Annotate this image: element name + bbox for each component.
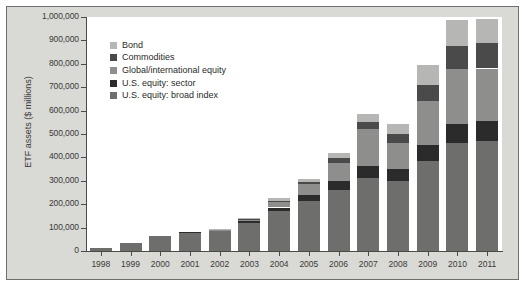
y-axis-tick-label: 1,000,000: [23, 11, 79, 21]
x-axis-tick: [457, 252, 458, 256]
bar-segment[interactable]: [298, 182, 320, 184]
x-axis-tick: [398, 252, 399, 256]
x-axis-tick: [339, 252, 340, 256]
bar-segment[interactable]: [387, 181, 409, 251]
bar-segment[interactable]: [446, 69, 468, 124]
bar-segment[interactable]: [417, 101, 439, 144]
stacked-bar[interactable]: [387, 17, 409, 251]
bar-segment[interactable]: [417, 145, 439, 161]
x-axis-tick: [428, 252, 429, 256]
stacked-bar[interactable]: [446, 17, 468, 251]
legend-item-label: U.S. equity: sector: [122, 79, 196, 88]
stacked-bar[interactable]: [417, 17, 439, 251]
legend-swatch-icon: [110, 54, 117, 61]
legend-item[interactable]: Commodities: [110, 52, 310, 65]
bar-segment[interactable]: [387, 169, 409, 181]
legend-item-label: Bond: [122, 41, 143, 50]
bar-segment[interactable]: [328, 163, 350, 182]
x-axis-tick-label: 2011: [467, 259, 507, 269]
bar-segment[interactable]: [357, 178, 379, 251]
legend: BondCommoditiesGlobal/international equi…: [110, 39, 310, 102]
bar-segment[interactable]: [387, 124, 409, 133]
bar-segment[interactable]: [357, 114, 379, 122]
x-axis-tick: [309, 252, 310, 256]
legend-swatch-icon: [110, 92, 117, 99]
x-axis-tick: [368, 252, 369, 256]
bar-segment[interactable]: [446, 46, 468, 69]
stacked-bar[interactable]: [357, 17, 379, 251]
x-axis-tick: [101, 252, 102, 256]
bar-segment[interactable]: [298, 201, 320, 251]
bar-segment[interactable]: [298, 184, 320, 195]
legend-item-label: Global/international equity: [122, 66, 226, 75]
x-axis-tick: [487, 252, 488, 256]
bar-segment[interactable]: [328, 190, 350, 251]
y-axis-tick-label: 700,000: [23, 81, 79, 91]
bar-segment[interactable]: [387, 134, 409, 143]
bar-segment[interactable]: [387, 143, 409, 169]
stacked-bar[interactable]: [90, 17, 112, 251]
etf-assets-stacked-bar-chart: ETF assets ($ millions) 1,000,000900,000…: [7, 7, 520, 281]
bar-segment[interactable]: [298, 195, 320, 201]
y-axis-tick-label: 300,000: [23, 175, 79, 185]
bar-segment[interactable]: [446, 143, 468, 251]
bar-segment[interactable]: [357, 122, 379, 129]
bar-segment[interactable]: [417, 161, 439, 251]
bar-segment[interactable]: [149, 236, 171, 251]
bar-segment[interactable]: [298, 179, 320, 183]
x-axis-tick: [160, 252, 161, 256]
bar-segment[interactable]: [268, 198, 290, 200]
bar-segment[interactable]: [238, 223, 260, 251]
bar-segment[interactable]: [476, 19, 498, 42]
y-axis-tick-label: 200,000: [23, 198, 79, 208]
legend-item[interactable]: U.S. equity: broad index: [110, 89, 310, 102]
x-axis-tick: [131, 252, 132, 256]
x-axis-tick: [279, 252, 280, 256]
bar-segment[interactable]: [238, 218, 260, 219]
legend-item[interactable]: Global/international equity: [110, 64, 310, 77]
bar-segment[interactable]: [417, 65, 439, 85]
bar-segment[interactable]: [268, 208, 290, 212]
stacked-bar[interactable]: [476, 17, 498, 251]
bar-segment[interactable]: [268, 202, 290, 208]
legend-item-label: U.S. equity: broad index: [122, 91, 218, 100]
y-axis-tick-label: 400,000: [23, 151, 79, 161]
y-axis-tick-label: 800,000: [23, 58, 79, 68]
bar-segment[interactable]: [446, 124, 468, 143]
bar-segment[interactable]: [268, 211, 290, 251]
bar-segment[interactable]: [476, 43, 498, 69]
x-axis-line: [86, 251, 503, 252]
stacked-bar[interactable]: [328, 17, 350, 251]
bar-segment[interactable]: [328, 158, 350, 162]
bar-segment[interactable]: [357, 166, 379, 179]
y-axis-tick-label: 500,000: [23, 128, 79, 138]
y-axis-tick-label: 600,000: [23, 105, 79, 115]
bar-segment[interactable]: [179, 233, 201, 251]
bar-segment[interactable]: [238, 221, 260, 223]
legend-swatch-icon: [110, 42, 117, 49]
bar-segment[interactable]: [328, 153, 350, 158]
legend-swatch-icon: [110, 80, 117, 87]
legend-item[interactable]: Bond: [110, 39, 310, 52]
y-axis-tick: [81, 251, 86, 252]
y-axis-tick-label: 900,000: [23, 34, 79, 44]
bar-segment[interactable]: [90, 248, 112, 252]
bar-segment[interactable]: [120, 243, 142, 251]
bar-segment[interactable]: [476, 69, 498, 122]
bar-segment[interactable]: [268, 201, 290, 202]
bar-segment[interactable]: [476, 121, 498, 141]
bar-segment[interactable]: [446, 20, 468, 46]
legend-swatch-icon: [110, 67, 117, 74]
x-axis-tick: [249, 252, 250, 256]
y-axis-tick-label: 0: [23, 245, 79, 255]
bar-segment[interactable]: [476, 141, 498, 251]
bar-segment[interactable]: [357, 129, 379, 165]
legend-item-label: Commodities: [122, 53, 175, 62]
bar-segment[interactable]: [417, 85, 439, 101]
bar-segment[interactable]: [209, 230, 231, 251]
bar-segment[interactable]: [328, 181, 350, 190]
figure-frame: ETF assets ($ millions) 1,000,000900,000…: [6, 6, 519, 280]
x-axis-tick: [190, 252, 191, 256]
bar-segment[interactable]: [238, 220, 260, 221]
legend-item[interactable]: U.S. equity: sector: [110, 77, 310, 90]
